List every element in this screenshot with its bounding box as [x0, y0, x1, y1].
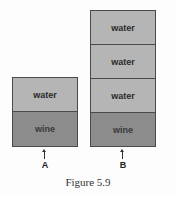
layer-label: water — [111, 57, 135, 67]
layer-label: water — [111, 23, 135, 33]
layer-label: water — [111, 91, 135, 101]
arrow-up-icon — [44, 151, 45, 159]
arrow-up-icon — [122, 151, 123, 159]
layer-label: wine — [113, 125, 133, 135]
layer-label: wine — [35, 124, 55, 134]
layer-wine: wine — [91, 113, 155, 146]
layer-water: water — [91, 79, 155, 113]
layer-water: water — [91, 11, 155, 45]
layer-water: water — [13, 78, 77, 112]
container-label-b: B — [113, 160, 133, 170]
figure-caption: Figure 5.9 — [0, 176, 176, 188]
layer-water: water — [91, 45, 155, 79]
layer-label: water — [33, 90, 57, 100]
container-label-a: A — [35, 160, 55, 170]
layer-wine: wine — [13, 112, 77, 146]
container-b: water water water wine — [90, 10, 156, 147]
container-a: water wine — [12, 77, 78, 147]
